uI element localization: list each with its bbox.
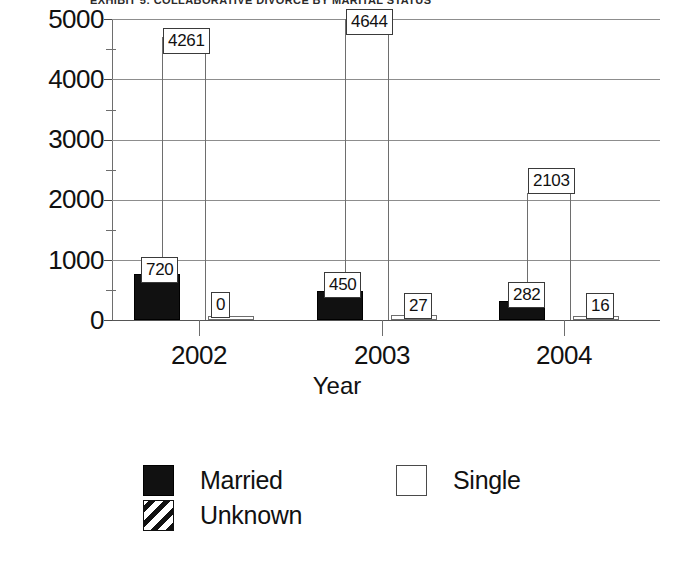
y-tick-label-2000: 2000 [4, 186, 104, 212]
value-label-married-2004: 282 [508, 282, 545, 308]
legend-swatch-unknown-icon [143, 500, 174, 531]
value-label-married-2002: 720 [141, 257, 178, 283]
x-axis-title: Year [0, 372, 674, 400]
y-tick-label-3000: 3000 [4, 126, 104, 152]
y-axis-labels: 5000 4000 3000 2000 1000 0 [0, 19, 104, 320]
value-label-unknown-2004: 2103 [528, 168, 575, 194]
gridline-0 [112, 320, 660, 321]
legend-item-unknown: Unknown [143, 500, 302, 531]
plot-area [112, 19, 660, 320]
value-label-single-2003: 27 [404, 293, 432, 319]
legend-label-unknown: Unknown [200, 501, 302, 530]
legend-swatch-single-icon [396, 465, 427, 496]
y-tick-label-5000: 5000 [4, 6, 104, 32]
legend-swatch-married-icon [143, 465, 174, 496]
y-tick-label-1000: 1000 [4, 247, 104, 273]
x-axis-label-2002: 2002 [139, 340, 259, 370]
y-tick-label-4000: 4000 [4, 66, 104, 92]
chart-title: EXHIBIT 5: COLLABORATIVE DIVORCE BY MARI… [90, 0, 560, 4]
chart-legend: Married Single Unknown [0, 455, 674, 550]
value-label-single-2002: 0 [211, 292, 230, 318]
x-tick-2004 [564, 320, 565, 336]
value-label-married-2003: 450 [324, 272, 361, 298]
legend-item-single: Single [396, 465, 521, 496]
legend-item-married: Married [143, 465, 283, 496]
chart-page: EXHIBIT 5: COLLABORATIVE DIVORCE BY MARI… [0, 0, 674, 566]
value-label-single-2004: 16 [586, 293, 614, 319]
x-axis-label-2004: 2004 [504, 340, 624, 370]
legend-label-married: Married [200, 466, 283, 495]
x-axis-label-2003: 2003 [322, 340, 442, 370]
value-label-unknown-2002: 4261 [163, 28, 210, 54]
value-label-unknown-2003: 4644 [346, 9, 393, 35]
x-tick-2003 [382, 320, 383, 336]
legend-label-single: Single [453, 466, 521, 495]
y-tick-label-0: 0 [4, 307, 104, 333]
x-tick-2002 [199, 320, 200, 336]
